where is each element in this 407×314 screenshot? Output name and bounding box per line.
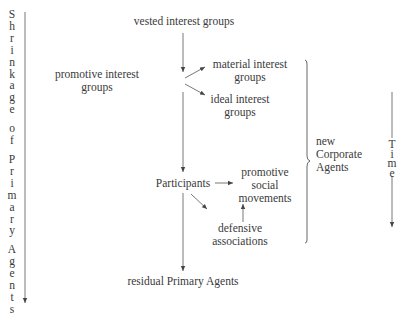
- axis-letter: i: [6, 45, 18, 57]
- node-text: movements: [230, 192, 300, 205]
- node-text: groups: [205, 71, 295, 84]
- axis-letter: e: [6, 104, 18, 116]
- axis-letter: i: [6, 178, 18, 190]
- residual-primary-agents-node: residual Primary Agents: [118, 275, 248, 288]
- node-text: material interest: [205, 58, 295, 71]
- axis-letter: e: [386, 169, 398, 179]
- axis-letter: f: [6, 135, 18, 147]
- promotive-social-movements-node: promotive social movements: [230, 166, 300, 205]
- node-text: social: [230, 179, 300, 192]
- node-text: promotive: [230, 166, 300, 179]
- material-interest-groups-node: material interest groups: [205, 58, 295, 84]
- axis-letter: y: [6, 225, 18, 237]
- node-text: residual Primary Agents: [127, 275, 238, 287]
- time-axis-label: T i m e: [386, 140, 398, 178]
- axis-letter: r: [6, 166, 18, 178]
- new-corporate-agents-label: new Corporate Agents: [316, 135, 362, 174]
- node-text: promotive interest: [42, 68, 152, 81]
- axis-letter: s: [6, 304, 18, 314]
- node-text: associations: [200, 235, 280, 248]
- defensive-associations-node: defensive associations: [200, 222, 280, 248]
- axis-letter: n: [6, 57, 18, 69]
- node-text: ideal interest: [200, 93, 280, 106]
- node-text: groups: [42, 81, 152, 94]
- node-text: Corporate: [316, 148, 362, 161]
- node-text: Participants: [156, 177, 210, 189]
- participants-node: Participants: [150, 177, 216, 190]
- axis-letter: m: [6, 190, 18, 202]
- shrinkage-axis-label: S h r i n k a g e o f P r i m a r y A g …: [6, 9, 18, 314]
- promotive-interest-groups-node: promotive interest groups: [42, 68, 152, 94]
- ideal-interest-groups-node: ideal interest groups: [200, 93, 280, 119]
- node-text: groups: [200, 106, 280, 119]
- node-text: defensive: [200, 222, 280, 235]
- vested-interest-groups-node: vested interest groups: [128, 15, 240, 28]
- node-text: new: [316, 135, 362, 148]
- node-text: Agents: [316, 161, 362, 174]
- axis-letter: r: [6, 33, 18, 45]
- node-text: vested interest groups: [134, 15, 234, 27]
- axis-letter: a: [6, 202, 18, 214]
